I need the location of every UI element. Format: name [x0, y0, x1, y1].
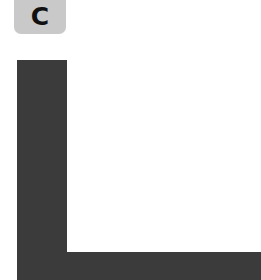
l-shape-vertical-bar	[17, 60, 67, 280]
panel-label-text: C	[31, 3, 49, 31]
panel-label-badge: C	[14, 0, 66, 34]
l-shape-horizontal-bar	[17, 252, 261, 280]
